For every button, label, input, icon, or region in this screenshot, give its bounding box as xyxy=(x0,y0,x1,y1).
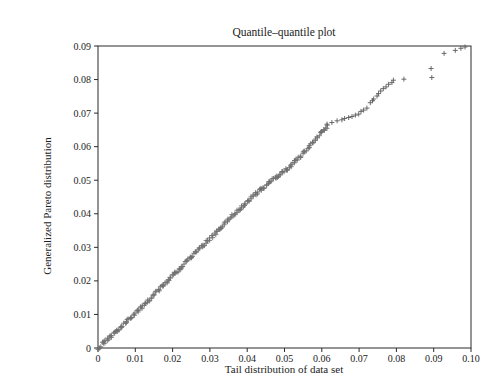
x-tick-label: 0.10 xyxy=(462,353,480,364)
qq-plot-figure: Quantile–quantile plot Tail distribution… xyxy=(40,16,484,386)
x-tick-label: 0.07 xyxy=(350,353,368,364)
y-tick-label: 0 xyxy=(86,343,91,354)
y-tick-label: 0.03 xyxy=(74,242,92,253)
x-tick-label: 0.03 xyxy=(201,353,219,364)
chart-title: Quantile–quantile plot xyxy=(232,26,336,39)
qq-plot-canvas: Quantile–quantile plot Tail distribution… xyxy=(40,16,484,386)
x-tick-label: 0.02 xyxy=(164,353,182,364)
x-tick-label: 0.05 xyxy=(276,353,294,364)
y-tick-label: 0.05 xyxy=(74,175,92,186)
y-tick-label: 0.07 xyxy=(74,108,92,119)
x-tick-label: 0.09 xyxy=(425,353,443,364)
y-tick-label: 0.06 xyxy=(74,141,92,152)
y-tick-label: 0.04 xyxy=(74,208,92,219)
x-tick-label: 0.04 xyxy=(238,353,256,364)
y-tick-label: 0.02 xyxy=(74,275,92,286)
x-tick-label: 0.01 xyxy=(127,353,145,364)
x-tick-label: 0 xyxy=(96,353,101,364)
figure-background xyxy=(40,16,484,386)
x-tick-label: 0.06 xyxy=(313,353,331,364)
x-tick-label: 0.08 xyxy=(388,353,406,364)
x-axis-label: Tail distribution of data set xyxy=(225,363,343,375)
y-tick-label: 0.09 xyxy=(74,41,92,52)
y-axis-label: Generalized Pareto distribution xyxy=(41,137,53,275)
y-tick-label: 0.08 xyxy=(74,74,92,85)
y-tick-label: 0.01 xyxy=(74,309,92,320)
